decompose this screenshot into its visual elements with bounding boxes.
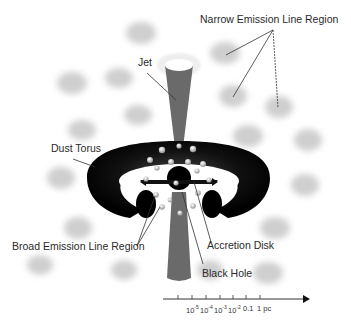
jet-lower xyxy=(167,192,191,281)
label-broad-emission-line-region: Broad Emission Line Region xyxy=(12,240,145,252)
label-accretion-disk: Accretion Disk xyxy=(207,239,274,251)
agn-diagram xyxy=(0,0,351,322)
label-jet: Jet xyxy=(138,56,152,68)
label-dust-torus: Dust Torus xyxy=(51,142,101,154)
scale-axis xyxy=(163,295,310,303)
scale-tick-0-1: 0.1 xyxy=(243,304,253,313)
scale-tick-1e-3: 10-3 xyxy=(214,304,227,315)
scale-tick-1pc: 1 pc xyxy=(257,304,271,313)
label-narrow-emission-line-region: Narrow Emission Line Region xyxy=(200,13,338,25)
scale-tick-1e-4: 10-4 xyxy=(200,304,213,315)
jet-upper xyxy=(157,53,201,148)
scale-tick-1e-5: 10-5 xyxy=(186,304,199,315)
label-black-hole: Black Hole xyxy=(202,267,252,279)
scale-tick-1e-2: 10-2 xyxy=(228,304,241,315)
